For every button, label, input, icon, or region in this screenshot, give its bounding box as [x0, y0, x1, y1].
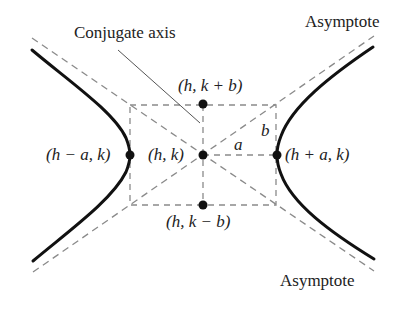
- right-vertex-label: (h + a, k): [285, 146, 349, 163]
- right-vertex-point: [273, 151, 282, 160]
- asymptote-label-bottom: Asymptote: [280, 272, 355, 289]
- a-segment-label: a: [234, 136, 243, 153]
- top-vertex-point: [199, 100, 208, 109]
- bottom-vertex-point: [199, 201, 208, 210]
- center-label: (h, k): [148, 146, 184, 163]
- left-vertex-point: [126, 151, 135, 160]
- asymptote-label-top: Asymptote: [305, 13, 380, 30]
- b-segment-label: b: [261, 122, 270, 139]
- top-vertex-label: (h, k + b): [178, 77, 242, 94]
- center-point: [199, 151, 208, 160]
- hyperbola-diagram: Conjugate axis Asymptote Asymptote (h, k…: [0, 0, 394, 311]
- conjugate-axis-label: Conjugate axis: [74, 24, 176, 41]
- bottom-vertex-label: (h, k − b): [166, 213, 230, 230]
- left-vertex-label: (h − a, k): [46, 146, 110, 163]
